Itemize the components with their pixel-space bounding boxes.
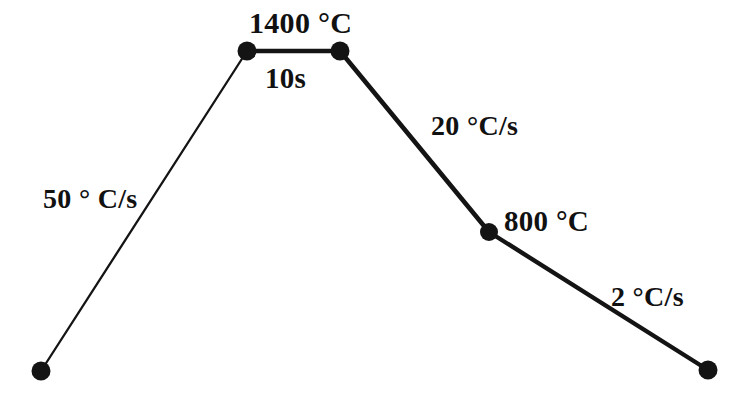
thermal-profile-figure: 1400 °C 10s 50 ° C/s 20 °C/s 800 °C 2 °C… — [0, 0, 737, 401]
marker-peak-end — [331, 42, 350, 61]
marker-start — [32, 362, 51, 381]
marker-peak-start — [238, 42, 257, 61]
peak-temperature-label: 1400 °C — [249, 8, 352, 38]
heating-rate-label: 50 ° C/s — [43, 185, 138, 213]
slow-cooling-rate-label: 2 °C/s — [611, 283, 684, 311]
fast-cooling-rate-label: 20 °C/s — [431, 112, 518, 140]
profile-polyline-group — [41, 51, 708, 371]
marker-intermediate — [480, 223, 498, 241]
dwell-time-label: 10s — [265, 64, 306, 93]
marker-end — [699, 361, 718, 380]
fast-cooling-segment — [340, 51, 489, 232]
intermediate-temperature-label: 800 °C — [504, 207, 589, 236]
